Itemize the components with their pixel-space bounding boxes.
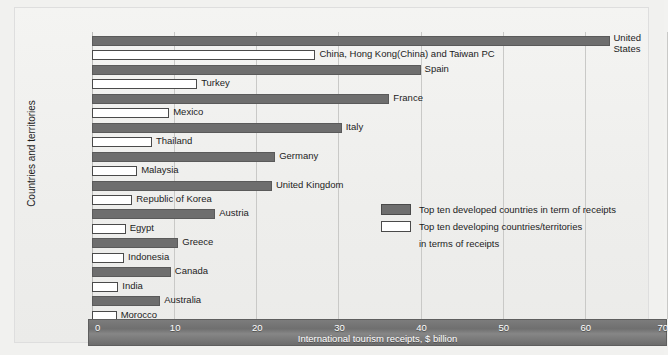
x-tick-10: 10: [170, 322, 181, 333]
bar-label: China, Hong Kong(China) and Taiwan PC: [319, 48, 494, 60]
bar-row: France: [92, 94, 667, 104]
bar-germany[interactable]: [92, 152, 275, 162]
bar-row: Spain: [92, 65, 667, 75]
bar-italy[interactable]: [92, 123, 342, 133]
bar-label: Egypt: [130, 222, 154, 234]
bar-label-line: United: [614, 32, 654, 43]
bar-row: Thailand: [92, 137, 667, 147]
bar-row: Turkey: [92, 79, 667, 89]
bar-label: Indonesia: [128, 251, 169, 263]
bar-label: France: [393, 92, 423, 104]
bar-row: India: [92, 282, 667, 292]
bar-row: Canada: [92, 267, 667, 277]
x-tick-70: 70: [657, 322, 668, 333]
bar-label: India: [122, 280, 143, 292]
bar-label: Greece: [182, 236, 213, 248]
bar-united-states[interactable]: [92, 36, 610, 46]
x-axis-band: 010203040506070 International tourism re…: [88, 319, 667, 346]
bar-row: Indonesia: [92, 253, 667, 263]
bar-label: Italy: [346, 121, 363, 133]
legend-item[interactable]: Top ten developed countries in term of r…: [381, 202, 651, 219]
bar-label: Republic of Korea: [136, 193, 212, 205]
legend-label: Top ten developing countries/territories: [419, 219, 582, 234]
bar-spain[interactable]: [92, 65, 421, 75]
bar-mexico[interactable]: [92, 108, 169, 118]
x-tick-50: 50: [498, 322, 509, 333]
bar-label: Thailand: [156, 135, 192, 147]
bar-label: Canada: [175, 265, 208, 277]
legend-item[interactable]: in terms of receipts: [381, 236, 651, 253]
bar-indonesia[interactable]: [92, 253, 124, 263]
x-tick-60: 60: [581, 322, 592, 333]
bar-malaysia[interactable]: [92, 166, 137, 176]
bar-canada[interactable]: [92, 267, 171, 277]
x-tick-30: 30: [334, 322, 345, 333]
bar-row: United Kingdom: [92, 181, 667, 191]
bar-label: Austria: [219, 207, 249, 219]
legend-item[interactable]: Top ten developing countries/territories: [381, 219, 651, 236]
bar-row: China, Hong Kong(China) and Taiwan PC: [92, 50, 667, 60]
bar-series-container: UnitedStatesChina, Hong Kong(China) and …: [92, 32, 667, 319]
bar-austria[interactable]: [92, 209, 215, 219]
x-axis-label: International tourism receipts, $ billio…: [89, 333, 666, 344]
bar-label: Germany: [279, 150, 318, 162]
bar-united-kingdom[interactable]: [92, 181, 272, 191]
bar-row: Italy: [92, 123, 667, 133]
bar-india[interactable]: [92, 282, 118, 292]
x-tick-40: 40: [416, 322, 427, 333]
bar-row: UnitedStates: [92, 36, 667, 46]
bar-egypt[interactable]: [92, 224, 126, 234]
bar-row: Germany: [92, 152, 667, 162]
legend-swatch-developed: [381, 204, 411, 215]
x-tick-0: 0: [95, 322, 100, 333]
bar-label: Australia: [164, 294, 201, 306]
bar-republic-of-korea[interactable]: [92, 195, 132, 205]
legend-swatch-developing: [381, 221, 411, 232]
bar-australia[interactable]: [92, 296, 160, 306]
bar-label: Spain: [425, 63, 449, 75]
x-tick-20: 20: [252, 322, 263, 333]
bar-label: Turkey: [201, 77, 230, 89]
bar-turkey[interactable]: [92, 79, 197, 89]
bar-row: Mexico: [92, 108, 667, 118]
y-axis-label: Countries and territories: [26, 74, 37, 234]
chart-legend: Top ten developed countries in term of r…: [381, 202, 651, 253]
bar-label: Mexico: [173, 106, 203, 118]
chart-frame: UnitedStatesChina, Hong Kong(China) and …: [14, 7, 649, 343]
bar-label: United Kingdom: [276, 179, 344, 191]
bar-greece[interactable]: [92, 238, 178, 248]
bar-row: Australia: [92, 296, 667, 306]
bar-row: Malaysia: [92, 166, 667, 176]
bar-thailand[interactable]: [92, 137, 152, 147]
legend-label: in terms of receipts: [419, 236, 499, 251]
bar-france[interactable]: [92, 94, 389, 104]
bar-china-hong-kong-china-and-taiwan-pc[interactable]: [92, 50, 315, 60]
bar-label: Malaysia: [141, 164, 179, 176]
legend-label: Top ten developed countries in term of r…: [419, 202, 616, 217]
